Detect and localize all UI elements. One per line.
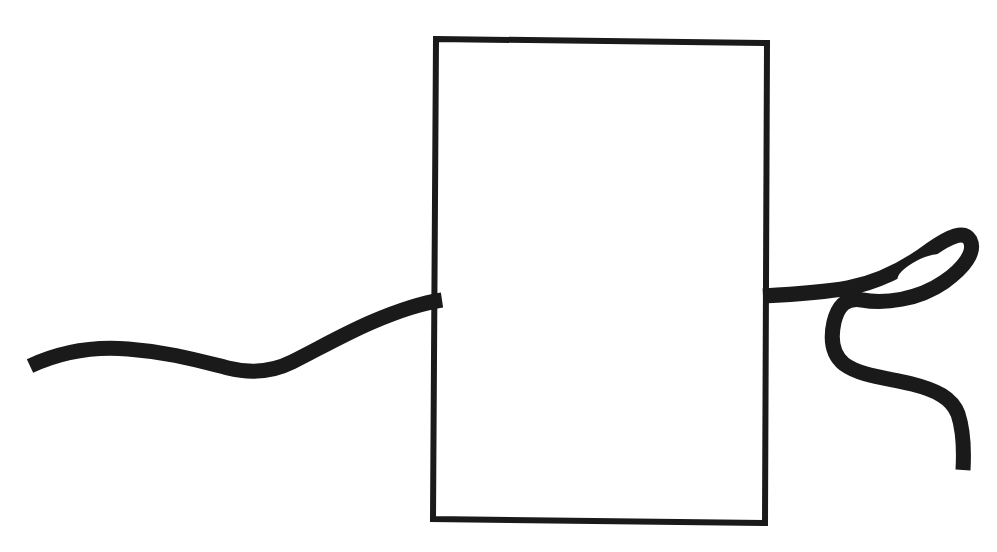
drawing-canvas — [0, 0, 997, 552]
paper-background — [0, 0, 997, 552]
line-drawing — [0, 0, 997, 552]
